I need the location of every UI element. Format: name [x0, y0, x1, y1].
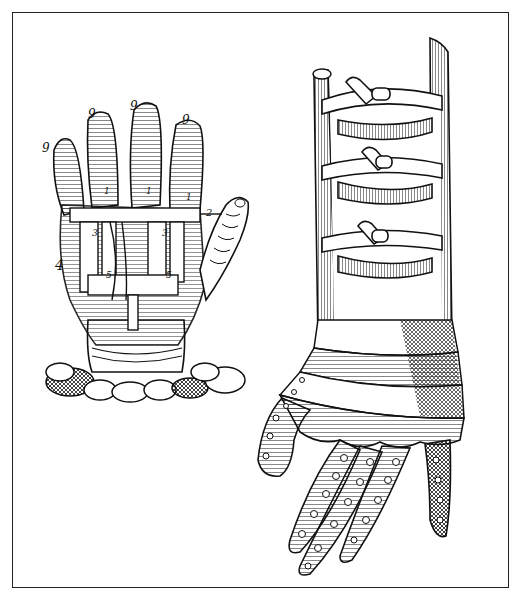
svg-text:2: 2 [205, 207, 212, 218]
svg-text:9: 9 [130, 99, 138, 113]
svg-text:9: 9 [182, 113, 190, 127]
svg-text:9: 9 [88, 107, 96, 121]
svg-text:1: 1 [146, 186, 152, 196]
mechanical-hand: 9 9 9 9 1 1 1 2 3 3 4 5 5 [42, 99, 248, 402]
svg-text:5: 5 [106, 270, 112, 280]
svg-text:3: 3 [162, 228, 168, 238]
armored-gauntlet-arm [258, 38, 464, 575]
svg-text:1: 1 [186, 192, 192, 202]
svg-text:1: 1 [104, 186, 110, 196]
svg-text:9: 9 [42, 141, 50, 155]
svg-text:5: 5 [166, 270, 172, 280]
svg-text:4: 4 [54, 257, 64, 273]
svg-text:3: 3 [92, 228, 98, 238]
engraving-illustration: 9 9 9 9 1 1 1 2 3 3 4 5 5 [0, 0, 517, 605]
